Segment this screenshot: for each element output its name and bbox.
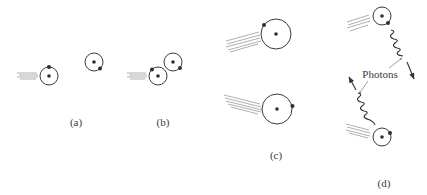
target-atom: [164, 53, 182, 71]
motion-streak-icon: [226, 32, 261, 52]
panel-d: Photons (d): [346, 7, 414, 190]
motion-streak-icon: [347, 15, 370, 31]
panel-label-c: (c): [270, 149, 283, 162]
motion-streak-icon: [346, 124, 370, 138]
excited-atom-top: [261, 19, 291, 49]
photon-leader-line: [359, 81, 368, 94]
atom-collision-diagram: (a) (b): [0, 0, 427, 195]
photons-label: Photons: [362, 68, 397, 80]
moving-atom: [40, 65, 58, 85]
photon-wave-icon: [357, 93, 375, 125]
motion-streak-icon: [224, 95, 262, 114]
panel-b: (b): [127, 53, 182, 129]
colliding-atom: [149, 67, 167, 85]
photon-wave-icon: [390, 30, 403, 56]
stationary-atom: [85, 53, 103, 71]
photon-leader-line: [389, 58, 402, 68]
emitting-atom-top: [373, 7, 391, 25]
panel-c: (c): [224, 19, 295, 162]
emitting-atom-bottom: [373, 128, 392, 146]
excited-atom-bottom: [262, 94, 295, 124]
panel-label-b: (b): [157, 116, 170, 129]
motion-streak-icon: [127, 73, 147, 79]
panel-a: (a): [17, 53, 103, 129]
panel-label-a: (a): [70, 116, 83, 129]
panel-label-d: (d): [378, 177, 391, 190]
photon-direction-arrow-icon: [407, 62, 414, 79]
photon-direction-arrow-icon: [349, 77, 356, 90]
motion-streak-icon: [17, 73, 38, 79]
